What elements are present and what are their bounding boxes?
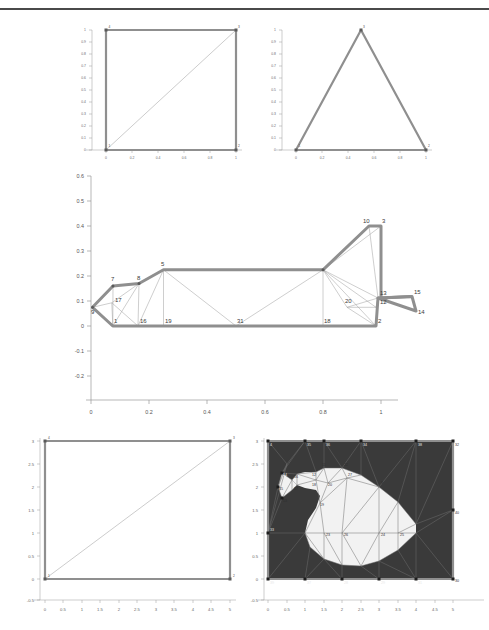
node-label: 29 bbox=[381, 581, 385, 585]
triangle-nodes: 1 2 3 bbox=[295, 25, 431, 152]
svg-text:0.1: 0.1 bbox=[77, 298, 85, 304]
node-label: 10 bbox=[363, 218, 370, 224]
node-label: 3 bbox=[238, 25, 240, 29]
node-label: 13 bbox=[380, 290, 387, 296]
svg-text:2: 2 bbox=[341, 607, 344, 612]
node-label: 31 bbox=[237, 318, 244, 324]
svg-text:0.2: 0.2 bbox=[81, 124, 86, 128]
node-label: 27 bbox=[348, 473, 352, 477]
node-label: 2 bbox=[238, 144, 240, 148]
node-label: 1 bbox=[48, 574, 50, 578]
svg-text:0.3: 0.3 bbox=[81, 112, 86, 116]
svg-text:0.7: 0.7 bbox=[81, 64, 86, 68]
svg-text:0.1: 0.1 bbox=[81, 136, 86, 140]
svg-text:0.5: 0.5 bbox=[252, 554, 258, 559]
svg-text:2: 2 bbox=[32, 485, 35, 490]
svg-text:0.2: 0.2 bbox=[145, 409, 153, 415]
svg-text:1: 1 bbox=[380, 409, 383, 415]
node-label: 5 bbox=[161, 261, 165, 267]
y-ticks-unit-triangle: 0 0.1 0.2 0.3 0.4 0.5 0.6 0.7 0.8 0.9 1 bbox=[271, 28, 282, 152]
svg-text:0.3: 0.3 bbox=[271, 112, 276, 116]
svg-text:0.6: 0.6 bbox=[77, 173, 85, 179]
svg-text:-0.2: -0.2 bbox=[75, 373, 84, 379]
y-ticks-airfoil: 0.6 0.5 0.4 0.3 0.2 0.1 0 -0.1 -0.2 bbox=[75, 173, 91, 379]
plot-airfoil-mesh: 0.6 0.5 0.4 0.3 0.2 0.1 0 -0.1 -0.2 0 0.… bbox=[58, 168, 483, 423]
airfoil-boundary bbox=[93, 226, 417, 326]
svg-text:0: 0 bbox=[32, 577, 35, 582]
svg-text:0.5: 0.5 bbox=[81, 88, 86, 92]
svg-text:3: 3 bbox=[378, 607, 381, 612]
svg-text:0.4: 0.4 bbox=[203, 409, 211, 415]
node-label: 18 bbox=[324, 318, 331, 324]
node-label: 32 bbox=[455, 443, 459, 447]
svg-text:4.5: 4.5 bbox=[208, 607, 214, 612]
svg-text:-0.1: -0.1 bbox=[75, 348, 84, 354]
svg-text:0.1: 0.1 bbox=[271, 136, 276, 140]
x-ticks-unit-square: 0 0.2 0.4 0.6 0.8 1 bbox=[105, 150, 237, 160]
svg-text:5: 5 bbox=[452, 607, 455, 612]
svg-text:-0.5: -0.5 bbox=[251, 598, 259, 603]
svg-text:0: 0 bbox=[295, 156, 297, 160]
svg-text:0.6: 0.6 bbox=[182, 156, 187, 160]
node-label: 3 bbox=[382, 218, 386, 224]
svg-text:5: 5 bbox=[229, 607, 232, 612]
svg-text:1: 1 bbox=[32, 531, 35, 536]
svg-text:1: 1 bbox=[81, 607, 84, 612]
svg-text:2.5: 2.5 bbox=[134, 607, 140, 612]
node-label: 39 bbox=[270, 581, 274, 585]
svg-text:0: 0 bbox=[105, 156, 107, 160]
svg-text:3: 3 bbox=[256, 439, 259, 444]
axes-rect: -0.5 0 0.5 1 1.5 2 2.5 3 0 0.5 1 1.5 2 2… bbox=[27, 438, 236, 612]
svg-text:3: 3 bbox=[32, 439, 35, 444]
node-label: 3 bbox=[233, 436, 235, 440]
svg-text:1.5: 1.5 bbox=[321, 607, 327, 612]
node-label: 38 bbox=[418, 443, 422, 447]
node-label: 12 bbox=[312, 473, 316, 477]
node-label: 9 bbox=[381, 481, 383, 485]
node-label: 2 bbox=[428, 144, 430, 148]
node-label: 2 bbox=[233, 574, 235, 578]
svg-text:0.5: 0.5 bbox=[28, 554, 34, 559]
node-label: 28 bbox=[344, 581, 348, 585]
node-label: 19 bbox=[320, 503, 324, 507]
svg-text:-0.5: -0.5 bbox=[27, 598, 35, 603]
svg-text:0.5: 0.5 bbox=[271, 88, 276, 92]
node-label: 8 bbox=[137, 275, 141, 281]
node-label: 18 bbox=[312, 483, 316, 487]
svg-text:0: 0 bbox=[274, 148, 276, 152]
svg-text:0.4: 0.4 bbox=[346, 156, 351, 160]
svg-text:0.8: 0.8 bbox=[271, 52, 276, 56]
svg-text:1: 1 bbox=[274, 28, 276, 32]
node-label: 22 bbox=[344, 463, 348, 467]
node-label: 17 bbox=[115, 297, 122, 303]
node-label: 14 bbox=[418, 309, 425, 315]
svg-text:0.7: 0.7 bbox=[271, 64, 276, 68]
node-label: 16 bbox=[140, 318, 147, 324]
node-label: 15 bbox=[279, 487, 283, 491]
rect-diagonal-edge bbox=[45, 441, 230, 579]
node-label: 11 bbox=[322, 463, 326, 467]
node-label: 36 bbox=[326, 443, 330, 447]
svg-text:0.6: 0.6 bbox=[81, 76, 86, 80]
svg-text:0.4: 0.4 bbox=[271, 100, 276, 104]
node-label: 30 bbox=[455, 579, 459, 583]
node-label: 15 bbox=[414, 289, 421, 295]
triangle-boundary bbox=[296, 30, 426, 150]
node-label: 40 bbox=[455, 511, 459, 515]
svg-text:4.5: 4.5 bbox=[432, 607, 438, 612]
svg-text:0.6: 0.6 bbox=[261, 409, 269, 415]
svg-text:1: 1 bbox=[425, 156, 427, 160]
svg-text:0.6: 0.6 bbox=[271, 76, 276, 80]
svg-text:0.5: 0.5 bbox=[60, 607, 66, 612]
svg-text:0.5: 0.5 bbox=[284, 607, 290, 612]
y-ticks-rect: -0.5 0 0.5 1 1.5 2 2.5 3 bbox=[27, 439, 40, 603]
top-divider-rule bbox=[0, 8, 489, 10]
svg-text:1: 1 bbox=[304, 607, 307, 612]
node-label: 33 bbox=[270, 528, 274, 532]
node-label: 24 bbox=[381, 533, 385, 537]
plot-rect-domain: -0.5 0 0.5 1 1.5 2 2.5 3 0 0.5 1 1.5 2 2… bbox=[12, 432, 240, 622]
node-label: 17 bbox=[294, 487, 298, 491]
svg-text:1: 1 bbox=[235, 156, 237, 160]
svg-text:1.5: 1.5 bbox=[252, 508, 258, 513]
svg-text:2.5: 2.5 bbox=[28, 462, 34, 467]
